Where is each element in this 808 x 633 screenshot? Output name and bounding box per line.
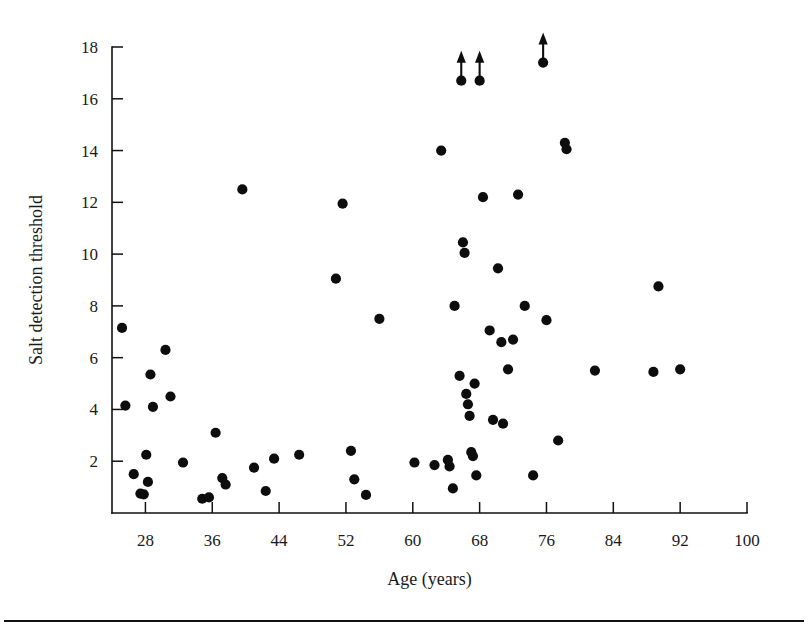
data-point (361, 490, 371, 500)
data-point (349, 474, 359, 484)
data-point (590, 366, 600, 376)
y-tick-label-16: 16 (81, 90, 98, 109)
x-tick-label-52: 52 (337, 531, 354, 550)
x-tick-label-92: 92 (672, 531, 689, 550)
censored-arrow (475, 51, 484, 77)
y-tick-label-10: 10 (81, 245, 98, 264)
data-point (459, 248, 469, 258)
data-point (145, 369, 155, 379)
data-point (478, 192, 488, 202)
censored-arrow (539, 33, 548, 59)
data-point (331, 274, 341, 284)
x-tick-label-28: 28 (137, 531, 154, 550)
data-point (488, 415, 498, 425)
x-tick-label-44: 44 (271, 531, 289, 550)
x-tick-label-84: 84 (605, 531, 623, 550)
data-point (346, 446, 356, 456)
data-point (249, 463, 259, 473)
data-point (513, 189, 523, 199)
data-point (561, 144, 571, 154)
x-tick-label-36: 36 (204, 531, 221, 550)
scatter-plot-figure: 28364452606876849210024681012141618Age (… (0, 0, 808, 633)
censor-head (457, 51, 466, 63)
y-tick-label-2: 2 (90, 452, 99, 471)
y-tick-label-4: 4 (90, 400, 99, 419)
data-point (503, 364, 513, 374)
data-point (237, 184, 247, 194)
data-point (475, 76, 485, 86)
data-point (448, 483, 458, 493)
data-point (520, 301, 530, 311)
y-tick-label-14: 14 (81, 142, 99, 161)
data-point (675, 364, 685, 374)
y-tick-label-6: 6 (90, 349, 99, 368)
data-point (148, 402, 158, 412)
data-point (471, 470, 481, 480)
data-point (436, 145, 446, 155)
data-point (269, 454, 279, 464)
data-point (374, 314, 384, 324)
data-point (165, 391, 175, 401)
x-tick-label-100: 100 (734, 531, 760, 550)
data-point (204, 492, 214, 502)
data-point (444, 461, 454, 471)
censored-arrow (457, 51, 466, 77)
data-point (139, 489, 149, 499)
x-tick-label-68: 68 (471, 531, 488, 550)
data-point (463, 399, 473, 409)
data-point (461, 389, 471, 399)
data-points-layer (117, 57, 685, 503)
data-point (449, 301, 459, 311)
censor-head (539, 33, 548, 45)
scatter-plot-canvas: 28364452606876849210024681012141618Age (… (0, 0, 808, 633)
data-point (409, 457, 419, 467)
axis-labels-layer: 28364452606876849210024681012141618Age (… (26, 38, 760, 590)
data-point (456, 76, 466, 86)
data-point (470, 378, 480, 388)
data-point (538, 57, 548, 67)
data-point (648, 367, 658, 377)
y-tick-label-12: 12 (81, 193, 98, 212)
data-point (468, 451, 478, 461)
data-point (458, 237, 468, 247)
data-point (508, 334, 518, 344)
data-point (261, 486, 271, 496)
data-point (294, 450, 304, 460)
data-point (528, 470, 538, 480)
data-point (120, 400, 130, 410)
data-point (493, 263, 503, 273)
data-point (454, 371, 464, 381)
x-tick-label-60: 60 (404, 531, 421, 550)
data-point (485, 325, 495, 335)
data-point (129, 469, 139, 479)
censor-head (475, 51, 484, 63)
y-tick-label-8: 8 (90, 297, 99, 316)
data-point (143, 477, 153, 487)
data-point (338, 199, 348, 209)
y-axis-title: Salt detection threshold (26, 195, 46, 365)
data-point (653, 281, 663, 291)
data-point (160, 345, 170, 355)
x-tick-label-76: 76 (538, 531, 555, 550)
x-axis-title: Age (years) (387, 569, 471, 590)
data-point (211, 428, 221, 438)
data-point (117, 323, 127, 333)
data-point (429, 460, 439, 470)
data-point (465, 411, 475, 421)
censored-arrows-layer (457, 33, 548, 77)
data-point (221, 479, 231, 489)
y-tick-label-18: 18 (81, 38, 98, 57)
data-point (496, 337, 506, 347)
data-point (541, 315, 551, 325)
data-point (178, 457, 188, 467)
data-point (553, 435, 563, 445)
axes-layer (112, 47, 747, 513)
data-point (498, 419, 508, 429)
data-point (141, 450, 151, 460)
